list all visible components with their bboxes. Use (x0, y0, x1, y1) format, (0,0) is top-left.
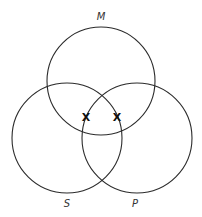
circle-m (47, 27, 155, 135)
x-mark-left: X (82, 111, 91, 124)
x-mark-right: X (113, 111, 122, 124)
circle-s (12, 83, 122, 193)
label-m: M (97, 11, 106, 22)
label-s: S (64, 198, 71, 209)
circle-p (82, 83, 192, 193)
venn-diagram: M S P X X (0, 0, 202, 217)
label-p: P (132, 198, 139, 209)
